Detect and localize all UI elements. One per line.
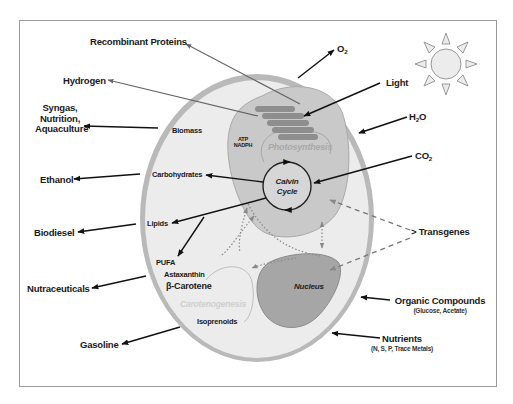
label-cycle: Cycle [267,188,307,196]
label-calvin: Calvin [267,178,307,186]
label-atp-nadph: ATP NADPH [233,136,253,148]
label-carotenogenesis: Carotenogenesis [180,300,246,309]
label-organic-compounds: Organic Compounds [390,296,490,306]
label-biodiesel: Biodiesel [34,228,74,238]
label-transgenes: > Transgenes [411,227,470,237]
label-syngas-group: Syngas, Nutrition, Aquaculture [35,103,85,134]
label-organic-compounds-detail: (Glucose, Acetate) [390,308,490,315]
label-biomass: Biomass [172,127,202,135]
label-ethanol: Ethanol [40,175,73,185]
label-isoprenoids: Isoprenoids [197,318,237,326]
label-gasoline: Gasoline [80,340,119,350]
label-light: Light [386,78,408,88]
label-nutrients-detail: (N, S, P, Trace Metals) [362,346,442,353]
label-syngas: Syngas, [35,103,85,113]
label-recombinant-proteins: Recombinant Proteins [90,37,187,47]
label-nutrients-group: Nutrients (N, S, P, Trace Metals) [362,334,442,352]
label-carbohydrates: Carbohydrates [152,171,202,179]
label-nutrients: Nutrients [362,334,442,344]
label-astaxanthin: Astaxanthin [164,271,205,279]
label-h2o: H2O [409,112,426,123]
label-beta-carotene: β-Carotene [166,282,212,291]
label-hydrogen: Hydrogen [63,76,106,86]
label-o2: O2 [337,44,347,55]
sun-icon [415,33,477,95]
label-nadph: NADPH [233,142,253,148]
label-aquaculture: Aquaculture [35,124,85,134]
label-pufa: PUFA [156,259,175,267]
label-nutrition: Nutrition, [35,114,85,124]
label-nutraceuticals: Nutraceuticals [27,284,90,294]
label-nucleus: Nucleus [294,283,324,291]
label-calvin-cycle: Calvin Cycle [267,178,307,196]
label-co2: CO2 [415,151,432,162]
label-photosynthesis: Photosynthesis [268,143,332,152]
label-lipids: Lipids [147,220,168,228]
label-organic-compounds-group: Organic Compounds (Glucose, Acetate) [390,296,490,314]
